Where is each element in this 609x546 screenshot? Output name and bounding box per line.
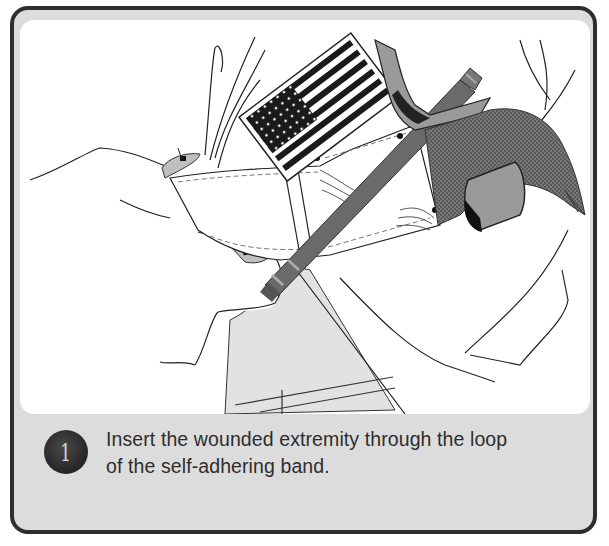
sleeve-lines xyxy=(205,37,265,168)
step-text-line-2: of the self-adhering band. xyxy=(106,453,586,480)
velcro-strap xyxy=(425,109,585,232)
step-text-line-1: Insert the wounded extremity through the… xyxy=(106,426,586,453)
step-text: Insert the wounded extremity through the… xyxy=(106,426,586,480)
step-instruction: 1 Insert the wounded extremity through t… xyxy=(44,424,584,504)
step-number-badge: 1 xyxy=(44,430,88,474)
tourniquet-illustration xyxy=(20,20,590,414)
illustration-panel xyxy=(20,20,590,414)
step-number: 1 xyxy=(61,441,72,465)
